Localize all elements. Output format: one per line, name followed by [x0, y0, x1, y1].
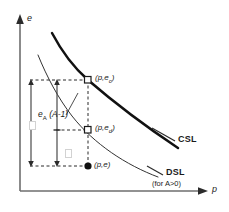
x-axis-arrowhead	[198, 187, 208, 195]
economics-csl-dsl-diagram: e p (p,ec) (p,ed) (p,e) eA (A-1) CSL DSL…	[0, 0, 229, 212]
y-axis-arrowhead	[16, 14, 24, 24]
point-marker-middle	[85, 127, 92, 134]
point-marker-upper	[85, 77, 92, 84]
point-label-upper-close: )	[112, 73, 115, 82]
point-label-middle: (p,ed)	[95, 124, 115, 134]
dsl-curve-sublabel: (for A>0)	[152, 180, 181, 188]
dsl-curve-label: DSL	[166, 168, 185, 177]
point-label-upper: (p,ec)	[95, 74, 114, 84]
point-label-middle-text: (p,e	[95, 123, 109, 132]
csl-curve-label: CSL	[178, 135, 197, 144]
diagram-canvas	[0, 0, 229, 212]
missing-glyph-placeholder-left	[29, 121, 36, 130]
gap-annotation-label: eA (A-1)	[38, 110, 68, 121]
point-label-upper-text: (p,e	[95, 73, 109, 82]
gap-annotation-expr: (A-1)	[49, 109, 68, 119]
point-label-lower: (p,e)	[94, 161, 110, 169]
y-axis-label: e	[27, 14, 32, 23]
inner-gap-measure	[54, 79, 61, 167]
x-axis-label: p	[212, 185, 217, 194]
csl-curve	[52, 33, 178, 148]
missing-glyph-placeholder-inner	[65, 149, 72, 158]
point-marker-lower	[84, 162, 91, 169]
point-label-lower-text: (p,e)	[94, 160, 110, 169]
guide-lines-group	[30, 80, 88, 166]
point-label-middle-close: )	[112, 123, 115, 132]
